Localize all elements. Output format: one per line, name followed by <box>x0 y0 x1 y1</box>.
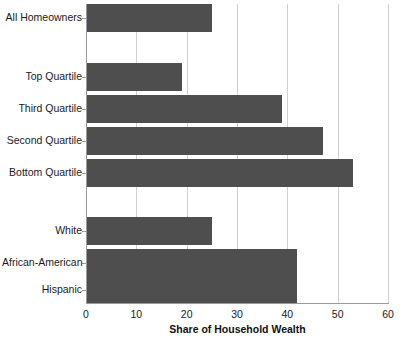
category-label: Bottom Quartile <box>2 167 82 178</box>
category-label-group: All HomeownersTop QuartileThird Quartile… <box>0 0 82 304</box>
bar <box>87 217 212 245</box>
bar-chart: All HomeownersTop QuartileThird Quartile… <box>0 0 408 340</box>
y-axis-tickmark <box>82 141 86 142</box>
x-axis-tick-label: 50 <box>323 308 353 320</box>
gridline-60 <box>388 4 389 304</box>
x-axis-tick-label: 20 <box>172 308 202 320</box>
bar <box>87 63 182 91</box>
gridline-50 <box>338 4 339 304</box>
category-label: All Homeowners <box>2 12 82 23</box>
category-label: White <box>2 225 82 236</box>
bar <box>87 95 282 123</box>
y-axis-tickmark <box>82 77 86 78</box>
y-axis-tickmark <box>82 290 86 291</box>
category-label: Top Quartile <box>2 71 82 82</box>
bar <box>87 277 297 303</box>
y-axis-tickmark <box>82 18 86 19</box>
x-axis-line <box>86 303 389 304</box>
category-label: Hispanic <box>2 284 82 295</box>
y-axis-tickmark <box>82 173 86 174</box>
x-axis-title: Share of Household Wealth <box>86 323 389 335</box>
bar <box>87 4 212 32</box>
bar <box>87 127 323 155</box>
category-label: African-American <box>2 257 82 268</box>
x-axis-tick-label: 40 <box>272 308 302 320</box>
bar <box>87 249 297 277</box>
x-axis-tick-label: 0 <box>71 308 101 320</box>
x-axis-tick-label: 30 <box>222 308 252 320</box>
x-axis-tick-label: 60 <box>373 308 403 320</box>
bar <box>87 159 353 187</box>
category-label: Second Quartile <box>2 135 82 146</box>
category-label: Third Quartile <box>2 103 82 114</box>
y-axis-tickmark <box>82 231 86 232</box>
y-axis-tickmark <box>82 109 86 110</box>
x-axis-tick-label: 10 <box>121 308 151 320</box>
